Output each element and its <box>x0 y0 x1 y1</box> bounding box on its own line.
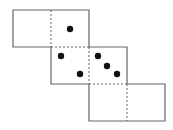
net-outline <box>13 10 165 121</box>
pip-dot <box>67 26 73 32</box>
pip-dot <box>104 63 110 69</box>
cube-net-diagram <box>0 0 173 130</box>
pip-dot <box>77 71 83 77</box>
pip-dot <box>58 53 64 59</box>
pip-dot <box>95 53 101 59</box>
pip-dot <box>114 71 120 77</box>
